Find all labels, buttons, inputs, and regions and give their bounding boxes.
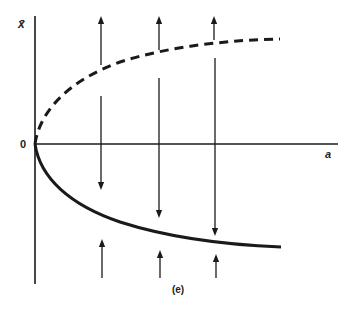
y-axis-label: x̄ xyxy=(17,17,26,31)
x-axis-label: a xyxy=(325,148,331,160)
unstable-branch-dashed xyxy=(35,39,280,144)
stable-branch-solid xyxy=(35,144,281,247)
caption: (e) xyxy=(172,284,184,295)
origin-label: 0 xyxy=(20,138,26,150)
bifurcation-diagram: x̄ 0 a (e) xyxy=(0,0,354,312)
